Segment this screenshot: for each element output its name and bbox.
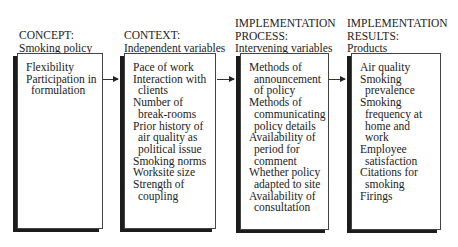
- heading-line: IMPLEMENTATION: [235, 17, 336, 30]
- heading-line: CONCEPT:: [19, 29, 92, 42]
- list-item: Whether policy adapted to site: [249, 167, 327, 190]
- list-item: Number of break-rooms: [133, 97, 209, 120]
- list-item: Pace of work: [133, 62, 209, 74]
- implementation-process-heading: IMPLEMENTATION PROCESS: Intervening vari…: [235, 17, 336, 55]
- list-item: Participation in formulation: [26, 74, 99, 97]
- concept-box: Flexibility Participation in formulation: [17, 53, 103, 229]
- flow-arrow-1: [103, 79, 118, 80]
- list-item: Prior history of air quality as politica…: [133, 121, 209, 156]
- flow-arrow-3: [329, 79, 345, 80]
- list-item: Air quality: [360, 62, 436, 74]
- context-box: Pace of work Interaction with clients Nu…: [124, 53, 216, 229]
- list-item: Smoking prevalence: [360, 74, 436, 97]
- heading-line: RESULTS:: [347, 30, 448, 43]
- implementation-results-heading: IMPLEMENTATION RESULTS: Products: [347, 17, 448, 55]
- list-item: Smoking frequency at home and work: [360, 97, 436, 144]
- list-item: Flexibility: [26, 62, 102, 74]
- flow-arrow-2: [217, 79, 234, 80]
- implementation-process-box: Methods of announcement of policy Method…: [240, 53, 329, 230]
- list-item: Availability of consultation: [249, 191, 327, 214]
- list-item: Availability of period for comment: [249, 132, 327, 167]
- list-item: Employee satisfaction: [360, 144, 436, 167]
- heading-line: CONTEXT:: [124, 29, 225, 42]
- list-item: Methods of announcement of policy: [249, 62, 327, 97]
- list-item: Interaction with clients: [133, 74, 209, 97]
- implementation-results-box: Air quality Smoking prevalence Smoking f…: [351, 53, 441, 230]
- list-item: Strength of coupling: [133, 179, 209, 202]
- context-heading: CONTEXT: Independent variables: [124, 29, 225, 54]
- heading-line: PROCESS:: [235, 30, 336, 43]
- concept-heading: CONCEPT: Smoking policy: [19, 29, 92, 54]
- list-item: Citations for smoking: [360, 167, 436, 190]
- list-item: Firings: [360, 191, 436, 203]
- heading-line: IMPLEMENTATION: [347, 17, 448, 30]
- list-item: Methods of communicating policy details: [249, 97, 327, 132]
